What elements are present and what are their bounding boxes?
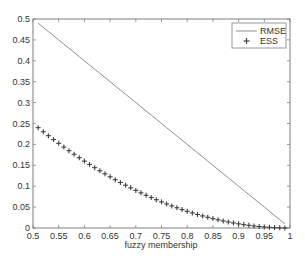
x-tick-label: 0.55 — [50, 231, 68, 241]
x-axis-label: fuzzy membership — [124, 240, 197, 250]
y-tick-label: 0.05 — [12, 202, 30, 212]
y-tick-label: 0.2 — [17, 139, 30, 149]
legend: RMSE ESS — [232, 23, 286, 48]
legend-rmse-label: RMSE — [260, 26, 286, 36]
x-tick-label: 0.65 — [101, 231, 119, 241]
x-tick-label: 0.9 — [232, 231, 245, 241]
x-tick-label: 0.6 — [78, 231, 91, 241]
y-tick-label: 0.15 — [12, 160, 30, 170]
y-tick-label: 0.45 — [12, 35, 30, 45]
legend-ess-label: ESS — [260, 36, 278, 46]
y-tick-label: 0.35 — [12, 77, 30, 87]
y-tick-label: 0.3 — [17, 98, 30, 108]
y-tick-label: 0 — [25, 223, 30, 233]
y-tick-label: 0.1 — [17, 181, 30, 191]
chart: 0.50.550.60.650.70.750.80.850.90.951 00.… — [0, 0, 305, 259]
y-tick-label: 0.5 — [17, 14, 30, 24]
x-tick-label: 1 — [287, 231, 292, 241]
x-tick-label: 0.85 — [204, 231, 222, 241]
x-tick-label: 0.95 — [256, 231, 274, 241]
y-tick-label: 0.25 — [12, 119, 30, 129]
y-tick-label: 0.4 — [17, 56, 30, 66]
